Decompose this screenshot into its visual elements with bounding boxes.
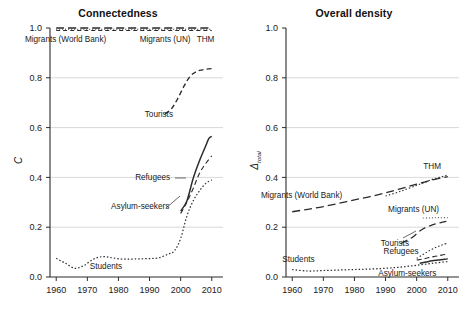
series-line-asylum-seekers [420, 259, 448, 263]
series-label-migrants-un: Migrants (UN) [388, 205, 439, 214]
series-label-migrants-un: Migrants (UN) [140, 35, 191, 44]
chart-panel-overall-density: Overall density 0.00.20.40.60.81.0196019… [236, 0, 472, 312]
x-tick-label: 1970 [313, 285, 333, 295]
series-label-refugees: Refugees [384, 247, 419, 256]
chart-panel-connectedness: Connectedness 0.00.20.40.60.81.019601970… [0, 0, 236, 312]
plot-area-connectedness: 0.00.20.40.60.81.01960197019801990200020… [0, 0, 236, 312]
series-label-refugees: Refugees [135, 173, 170, 182]
y-tick-label: 0.0 [29, 272, 42, 282]
x-tick-label: 1970 [77, 285, 97, 295]
series-label-students: Students [90, 262, 122, 271]
series-label-asylum-seekers: Asylum-seekers [378, 269, 436, 278]
series-label-thm: THM [423, 162, 441, 171]
series-label-asylum-seekers: Asylum-seekers [111, 202, 169, 211]
y-axis-title: Δtotal [249, 151, 262, 171]
y-axis-title: C [13, 156, 24, 164]
figure-container: Connectedness 0.00.20.40.60.81.019601970… [0, 0, 472, 312]
x-tick-label: 1960 [282, 285, 302, 295]
series-line-tourists [165, 69, 212, 114]
y-tick-label: 0.8 [265, 73, 278, 83]
x-tick-label: 2010 [438, 285, 458, 295]
series-line-students [56, 180, 212, 268]
y-tick-label: 0.2 [29, 222, 42, 232]
x-tick-label: 1960 [46, 285, 66, 295]
series-label-migrants-world-bank: Migrants (World Bank) [261, 191, 343, 200]
series-label-thm: THM [197, 35, 215, 44]
y-tick-label: 0.6 [265, 123, 278, 133]
series-line-refugees [417, 243, 448, 258]
y-tick-label: 0.8 [29, 73, 42, 83]
x-tick-label: 2010 [202, 285, 222, 295]
y-tick-label: 0.6 [29, 123, 42, 133]
x-tick-label: 1990 [140, 285, 160, 295]
y-tick-label: 0.0 [265, 272, 278, 282]
x-tick-label: 2000 [407, 285, 427, 295]
series-label-migrants-world-bank: Migrants (World Bank) [25, 35, 107, 44]
x-tick-label: 1980 [344, 285, 364, 295]
x-tick-label: 1980 [108, 285, 128, 295]
x-tick-label: 1990 [376, 285, 396, 295]
series-label-students: Students [282, 255, 314, 264]
x-tick-label: 2000 [171, 285, 191, 295]
y-tick-label: 0.2 [265, 222, 278, 232]
leader-line-tourists [403, 231, 416, 238]
y-tick-label: 0.4 [29, 173, 42, 183]
series-line-asylum-seekers [181, 136, 212, 211]
y-tick-label: 1.0 [29, 23, 42, 33]
series-label-tourists: Tourists [145, 110, 173, 119]
y-tick-label: 0.4 [265, 173, 278, 183]
y-tick-label: 1.0 [265, 23, 278, 33]
plot-area-overall-density: 0.00.20.40.60.81.01960197019801990200020… [236, 0, 472, 312]
